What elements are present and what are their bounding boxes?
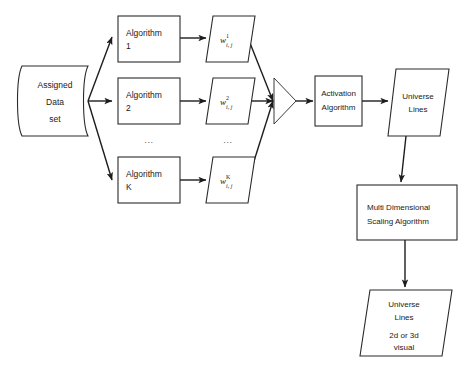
- node-universe-lines-top: Universe Lines: [388, 69, 449, 136]
- universe-lines-top-line1: Universe: [402, 92, 434, 101]
- weight-1-subscript: i, j: [226, 42, 233, 48]
- data-store-line3: set: [49, 114, 61, 124]
- connector-datastore-to-algorithms: [88, 37, 112, 180]
- weight-ellipsis: ...: [223, 135, 232, 145]
- node-merge-triangle: [274, 78, 296, 124]
- algorithm-1-line2: 1: [126, 41, 131, 51]
- node-data-store: Assigned Data set: [18, 66, 89, 136]
- node-algorithm-1: Algorithm 1: [118, 16, 180, 62]
- universe-lines-bottom-line1: Universe: [388, 300, 420, 309]
- universe-lines-bottom-line2: Lines: [394, 313, 413, 322]
- connector-datastore-to-algorithm-k: [88, 101, 112, 180]
- flowchart-diagram: Assigned Data set Algorithm 1 Algorithm …: [0, 0, 468, 374]
- data-store-line1: Assigned: [38, 80, 73, 90]
- diagram-canvas: Assigned Data set Algorithm 1 Algorithm …: [0, 0, 468, 374]
- connector-datastore-to-algorithm-1: [88, 37, 112, 101]
- mds-algorithm-line2: Scaling Algorithm: [367, 217, 429, 226]
- mds-algorithm-line1: Multi Dimensional: [367, 203, 430, 212]
- node-algorithm-2: Algorithm 2: [118, 78, 180, 124]
- weight-k-subscript: i, j: [226, 183, 233, 189]
- algorithm-k-line1: Algorithm: [126, 169, 162, 179]
- node-universe-lines-bottom: Universe Lines 2d or 3d visual: [360, 290, 452, 356]
- activation-algorithm-line1: Activation: [321, 89, 356, 98]
- node-weight-2: w 2 i, j: [206, 78, 255, 124]
- universe-lines-bottom-line4: visual: [394, 343, 415, 352]
- weight-2-superscript: 2: [226, 95, 229, 101]
- weight-2-subscript: i, j: [226, 104, 233, 110]
- connector-algorithms-to-weights: [180, 38, 206, 180]
- algorithm-1-line1: Algorithm: [126, 28, 162, 38]
- activation-algorithm-line2: Algorithm: [322, 103, 356, 112]
- node-algorithm-k: Algorithm K: [118, 157, 180, 203]
- node-mds-algorithm: Multi Dimensional Scaling Algorithm: [357, 185, 457, 240]
- data-store-line2: Data: [46, 97, 64, 107]
- node-weight-1: w 1 i, j: [206, 16, 255, 62]
- weight-1-superscript: 1: [226, 33, 229, 39]
- algorithm-k-line2: K: [126, 182, 132, 192]
- weight-k-superscript: K: [226, 174, 231, 180]
- universe-lines-top-line2: Lines: [408, 105, 427, 114]
- universe-lines-bottom-line3: 2d or 3d: [389, 331, 418, 340]
- algorithm-2-line2: 2: [126, 103, 131, 113]
- algorithm-ellipsis: ...: [144, 135, 153, 145]
- node-weight-k: w K i, j: [206, 157, 255, 203]
- node-activation-algorithm: Activation Algorithm: [315, 76, 362, 126]
- connector-universe-lines-top-to-mds: [401, 136, 406, 182]
- algorithm-2-line1: Algorithm: [126, 90, 162, 100]
